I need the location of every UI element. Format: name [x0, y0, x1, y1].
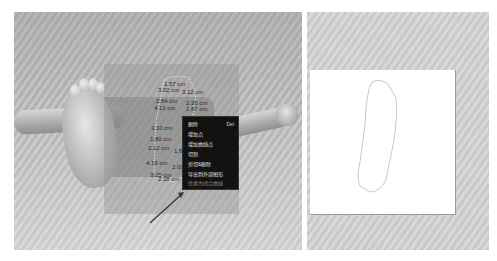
menu-item-add-curve-point[interactable]: 增加曲线点 — [188, 141, 213, 147]
menu-item-delete[interactable]: 删除 — [188, 121, 198, 127]
menu-item-cut[interactable]: 切割 — [188, 151, 198, 157]
menu-item-convert-closed-curve[interactable]: 转换为闭合曲线 — [188, 180, 223, 186]
foot-outline-shape — [310, 70, 455, 214]
menu-item-cut-delete[interactable]: 剪切&删除 — [188, 161, 211, 167]
menu-item-export-shape[interactable]: 导出到外部图形 — [188, 171, 223, 177]
2d-viewport[interactable] — [307, 12, 489, 250]
outline-canvas[interactable] — [310, 70, 456, 215]
menu-shortcut-delete: Del — [226, 121, 234, 127]
context-menu: 删除 Del 增加点 增加曲线点 切割 剪切&删除 导出到外部图形 转换为闭合曲… — [183, 117, 238, 189]
menu-item-add-point[interactable]: 增加点 — [188, 131, 203, 137]
